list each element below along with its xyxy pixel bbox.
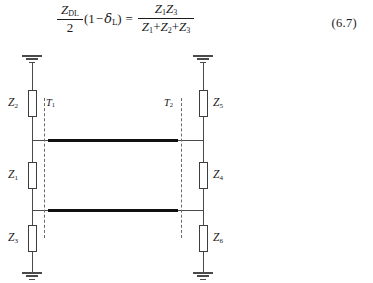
wire-left-mid-upper bbox=[32, 140, 33, 162]
right-fraction-numerator: Z1Z3 bbox=[151, 2, 182, 18]
wire-right-top bbox=[203, 63, 204, 90]
wire-left-lower-mid bbox=[32, 210, 33, 225]
gnd-bottom-right-icon bbox=[192, 272, 214, 283]
wire-left-top bbox=[32, 63, 33, 90]
right-fraction: Z1Z3 Z1+Z2+Z3 bbox=[138, 2, 194, 35]
wire-left-upper-mid bbox=[32, 117, 33, 141]
impedance-z2-box bbox=[28, 90, 37, 117]
wire-right-mid-lower bbox=[203, 189, 204, 211]
delta-symbol: δL bbox=[104, 11, 117, 27]
impedance-z3-box bbox=[28, 225, 37, 252]
impedance-z3-label: Z3 bbox=[8, 232, 18, 245]
gnd-bottom-left-icon bbox=[21, 272, 43, 283]
tline-lower-conductor bbox=[48, 209, 178, 212]
wire-right-upper-mid bbox=[203, 117, 204, 141]
circuit-diagram: Z2 Z1 Z3 Z5 Z4 bbox=[0, 50, 373, 255]
equation-expression: ZDL 2 ( 1 − δL ) = Z1Z3 Z1+Z2+Z3 bbox=[56, 2, 195, 35]
wire-left-mid-lower bbox=[32, 189, 33, 211]
impedance-z1-box bbox=[28, 162, 37, 189]
impedance-z2-label: Z2 bbox=[8, 97, 18, 110]
wire-right-bottom bbox=[203, 252, 204, 273]
left-fraction: ZDL 2 bbox=[57, 3, 83, 35]
equation-number: (6.7) bbox=[332, 16, 357, 31]
impedance-z4-label: Z4 bbox=[213, 169, 223, 182]
tline-upper-conductor bbox=[48, 139, 178, 142]
equals-sign: = bbox=[122, 11, 137, 27]
factor-minus-sign: − bbox=[95, 11, 104, 27]
impedance-z6-label: Z6 bbox=[213, 232, 223, 245]
reference-plane-t1-line bbox=[44, 98, 45, 238]
wire-right-lower-mid bbox=[203, 210, 204, 225]
left-fraction-denominator: 2 bbox=[63, 20, 78, 35]
left-fraction-numerator: ZDL bbox=[57, 3, 83, 19]
impedance-z5-box bbox=[199, 90, 208, 117]
wire-left-bottom bbox=[32, 252, 33, 273]
equation-row: ZDL 2 ( 1 − δL ) = Z1Z3 Z1+Z2+Z3 (6.7) bbox=[0, 2, 373, 50]
impedance-z6-box bbox=[199, 225, 208, 252]
wire-right-mid-upper bbox=[203, 140, 204, 162]
right-fraction-denominator: Z1+Z2+Z3 bbox=[138, 19, 194, 35]
impedance-z1-label: Z1 bbox=[8, 169, 18, 182]
reference-plane-t1-label: T1 bbox=[46, 98, 55, 109]
reference-plane-t2-line bbox=[181, 98, 182, 238]
impedance-z5-label: Z5 bbox=[213, 97, 223, 110]
impedance-z4-box bbox=[199, 162, 208, 189]
reference-plane-t2-label: T2 bbox=[164, 98, 173, 109]
